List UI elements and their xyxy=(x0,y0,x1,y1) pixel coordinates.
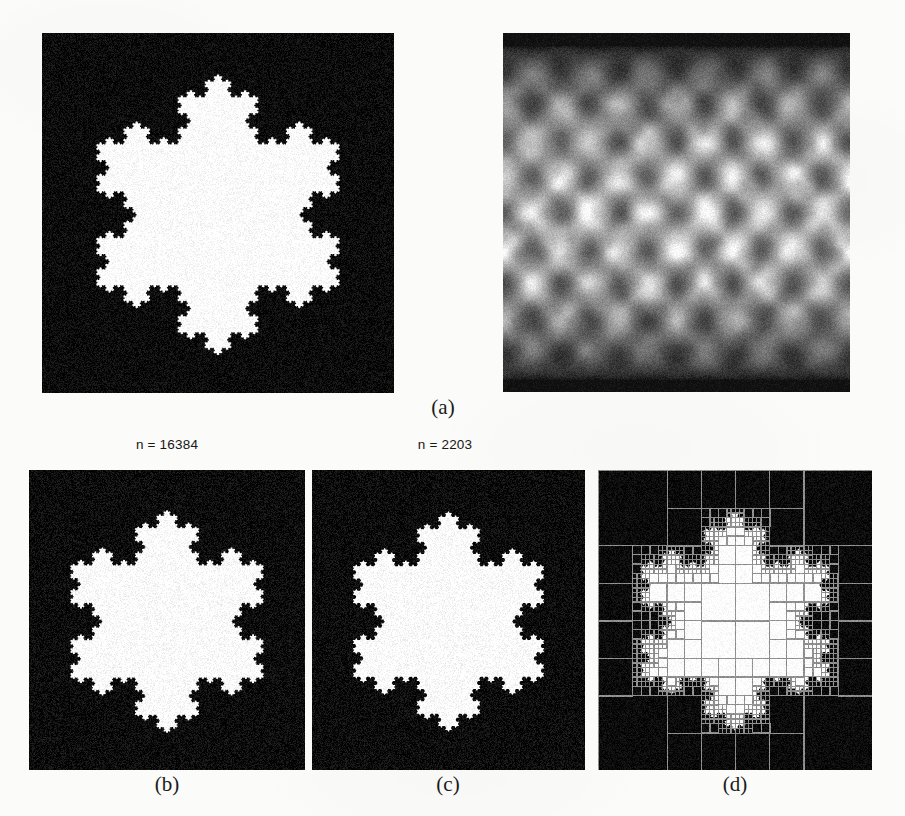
panel-a-binary-snowflake xyxy=(42,33,394,393)
label-n-panel-c: n = 2203 xyxy=(370,437,520,452)
panel-d-snowflake-quadtree xyxy=(598,470,872,770)
koch-snowflake-n16384-canvas xyxy=(29,470,305,770)
caption-a: (a) xyxy=(368,395,518,420)
caption-c: (c) xyxy=(373,772,523,797)
panel-c-snowflake-n2203 xyxy=(312,470,585,770)
panel-a-grayscale-pattern xyxy=(503,33,850,392)
koch-snowflake-quadtree-canvas xyxy=(598,470,872,770)
koch-snowflake-binary-canvas xyxy=(42,33,394,393)
koch-snowflake-n2203-canvas xyxy=(312,470,585,770)
caption-b: (b) xyxy=(92,772,242,797)
figure-page: (a) n = 16384 n = 2203 (b) (c) (d) xyxy=(0,0,905,816)
panel-b-snowflake-n16384 xyxy=(29,470,305,770)
caption-d: (d) xyxy=(660,772,810,797)
label-n-panel-b: n = 16384 xyxy=(92,437,242,452)
grayscale-interference-canvas xyxy=(503,33,850,392)
